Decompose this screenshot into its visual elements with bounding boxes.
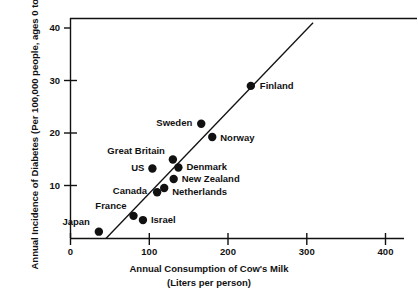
point-label-finland: Finland	[260, 80, 294, 91]
x-tick-label: 100	[134, 246, 164, 257]
y-axis-title-line2: (Per 100,000 people, ages 0 to 14)	[29, 0, 40, 134]
data-point	[169, 155, 177, 163]
trend-line	[106, 23, 313, 239]
y-axis-title-line1: Annual Incidence of Diabetes	[29, 137, 40, 270]
point-label-israel: Israel	[151, 214, 176, 225]
y-axis-title: Annual Incidence of Diabetes (Per 100,00…	[20, 26, 48, 226]
data-point	[160, 184, 168, 192]
data-point	[153, 188, 161, 196]
point-label-netherlands: Netherlands	[172, 186, 227, 197]
point-label-us: US	[131, 162, 144, 173]
point-label-great-britain: Great Britain	[107, 145, 165, 156]
x-tick-label: 0	[56, 246, 86, 257]
x-tick-label: 200	[213, 246, 243, 257]
x-tick-label: 400	[371, 246, 401, 257]
data-point	[174, 163, 182, 171]
data-point	[129, 212, 137, 220]
data-point	[139, 216, 147, 224]
data-point	[95, 227, 103, 235]
point-label-denmark: Denmark	[186, 161, 227, 172]
data-point	[197, 120, 205, 128]
y-tick-label: 30	[38, 75, 60, 86]
point-label-japan: Japan	[62, 216, 89, 227]
data-point	[208, 133, 216, 141]
point-label-new-zealand: New Zealand	[182, 173, 240, 184]
point-label-norway: Norway	[220, 132, 254, 143]
y-tick-label: 40	[38, 22, 60, 33]
point-label-sweden: Sweden	[156, 117, 192, 128]
x-tick-label: 300	[292, 246, 322, 257]
plot-area	[0, 0, 418, 304]
y-tick-label: 20	[38, 127, 60, 138]
x-axis-title-line1: Annual Consumption of Cow's Milk	[0, 262, 418, 276]
y-tick-label: 10	[38, 180, 60, 191]
data-point	[169, 175, 177, 183]
data-point-group	[95, 82, 255, 236]
x-axis-title: Annual Consumption of Cow's Milk (Liters…	[0, 262, 418, 290]
scatter-chart: Annual Incidence of Diabetes (Per 100,00…	[0, 0, 418, 304]
data-point	[148, 164, 156, 172]
point-label-france: France	[95, 200, 126, 211]
data-point	[247, 82, 255, 90]
x-axis-title-line2: (Liters per person)	[0, 276, 418, 290]
point-label-canada: Canada	[113, 185, 147, 196]
